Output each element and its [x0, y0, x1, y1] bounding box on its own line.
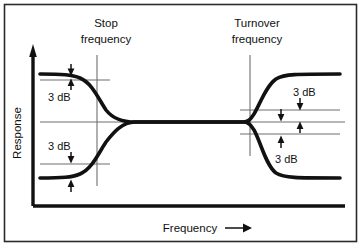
frequency-response-figure: Stop frequency Turnover frequency 3 dB 3…: [0, 0, 361, 246]
turnover-frequency-label-line2: frequency: [232, 33, 283, 45]
stop-frequency-label-line1: Stop: [94, 17, 118, 29]
x-axis-arrow-icon: [225, 224, 252, 233]
y-axis-arrow-icon: [29, 44, 37, 57]
boost-response-curve: [40, 74, 340, 122]
cut-response-curve: [40, 122, 340, 178]
db-label-upper-right: 3 dB: [293, 86, 316, 98]
stop-frequency-label-line2: frequency: [81, 33, 132, 45]
db-dimension-lower-right: [278, 122, 304, 148]
x-axis-label: Frequency: [163, 222, 218, 234]
turnover-frequency-label-line1: Turnover: [234, 17, 280, 29]
db-dimension-lower-left: [68, 152, 75, 192]
db-label-lower-right: 3 dB: [275, 153, 298, 165]
y-axis-label: Response: [11, 107, 23, 159]
response-curve-diagram: Stop frequency Turnover frequency 3 dB 3…: [0, 0, 361, 246]
db-label-upper-left: 3 dB: [48, 91, 71, 103]
db-label-lower-left: 3 dB: [48, 140, 71, 152]
